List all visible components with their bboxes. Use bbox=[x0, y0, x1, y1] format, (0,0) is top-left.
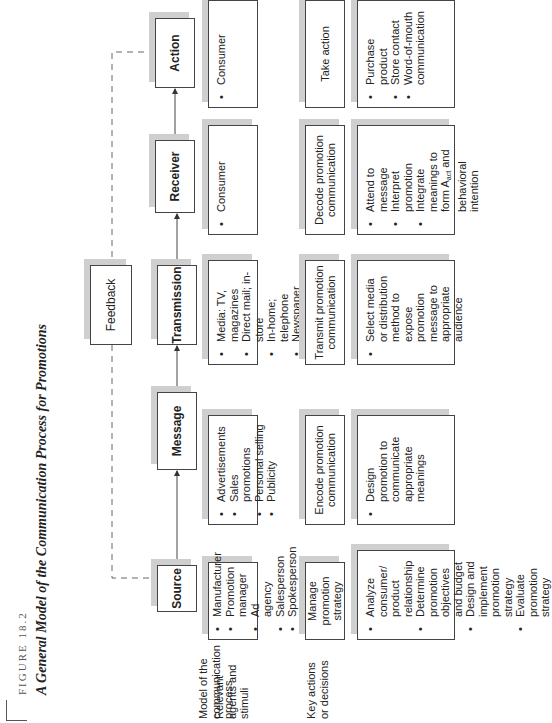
list-item: Store contact bbox=[389, 7, 402, 99]
decisions-receiver: Attend to message Interpret promotion In… bbox=[357, 125, 455, 235]
decisions-action: Purchase product Store contact Word-of-m… bbox=[357, 0, 455, 108]
source-node: Source bbox=[157, 565, 197, 612]
list-item: Purchase product bbox=[364, 7, 389, 99]
agents-receiver: Consumer bbox=[208, 125, 258, 235]
agents-source: Manufacturer Promotion manager Ad agency… bbox=[208, 562, 258, 640]
decisions-message: Design promotion to communicate appropri… bbox=[357, 415, 455, 525]
message-node: Message bbox=[157, 392, 197, 470]
list-item: Analyze consumer/ product relationship bbox=[364, 557, 414, 631]
key-action-message: Encode promotion communication bbox=[305, 415, 345, 525]
decisions-transmission: Select media or distribution method to e… bbox=[357, 260, 455, 365]
subscript-act: act bbox=[445, 171, 452, 180]
list-item: Word-of-mouth communication bbox=[402, 7, 427, 99]
list-item: Determine promotion objectives and budge… bbox=[414, 557, 464, 631]
list-item: Spokesperson bbox=[286, 569, 299, 631]
list-item: Interpret promotion bbox=[389, 132, 414, 226]
list-item: Salesperson bbox=[274, 569, 287, 631]
agents-message: Advertisements Sales promotions Personal… bbox=[208, 415, 258, 525]
list-item: Design promotion to communicate appropri… bbox=[364, 432, 427, 516]
list-item: Sales promotions bbox=[228, 422, 253, 516]
list-item: Ad agency bbox=[249, 569, 274, 631]
key-action-transmission: Transmit promotion communication bbox=[305, 260, 345, 365]
list-item: Promotion manager bbox=[224, 569, 249, 631]
list-item: Consumer bbox=[215, 7, 228, 99]
receiver-node: Receiver bbox=[155, 140, 195, 213]
list-item: Attend to message bbox=[364, 132, 389, 226]
agents-action: Consumer bbox=[208, 0, 258, 108]
list-item: Consumer bbox=[215, 132, 228, 226]
feedback-node: Feedback bbox=[90, 265, 132, 345]
list-item: Publicity bbox=[265, 422, 278, 516]
list-item: Manufacturer bbox=[211, 569, 224, 631]
row-label-agents: Relevant agents and stimuli bbox=[213, 655, 251, 719]
list-item: Advertisements bbox=[215, 422, 228, 516]
list-item: Select media or distribution method to e… bbox=[364, 267, 464, 356]
agents-transmission: Media: TV, magazines Direct mail; in-sto… bbox=[208, 260, 258, 365]
list-item: Design and implement promotion strategy bbox=[464, 557, 514, 631]
key-action-action: Take action bbox=[305, 0, 345, 108]
list-item: Personal selling bbox=[253, 422, 266, 516]
action-node: Action bbox=[155, 18, 195, 88]
list-item: Evaluate promotion strategy bbox=[514, 557, 552, 631]
decisions-source: Analyze consumer/ product relationship D… bbox=[357, 550, 455, 640]
transmission-node: Transmission bbox=[157, 265, 197, 345]
row-label-actions: Key actions or decisions bbox=[305, 655, 330, 719]
list-item: Direct mail; in-store bbox=[240, 267, 265, 356]
key-action-source: Manage promotion strategy bbox=[305, 562, 345, 640]
list-item: Media: TV, magazines bbox=[215, 267, 240, 356]
list-item: In-home; telephone bbox=[265, 267, 290, 356]
key-action-receiver: Decode promotion communication bbox=[305, 125, 345, 235]
list-item: Integrate meanings to form Aact and beha… bbox=[414, 132, 481, 226]
